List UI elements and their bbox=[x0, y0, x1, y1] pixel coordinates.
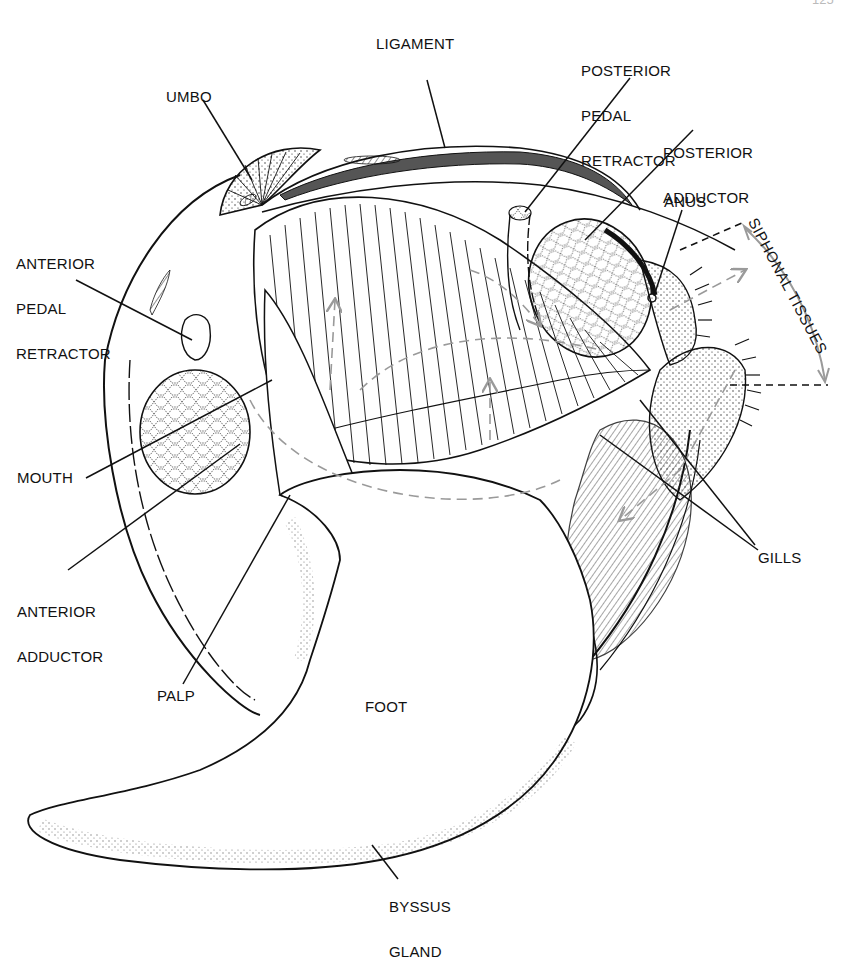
label-gills: GILLS bbox=[758, 550, 802, 565]
label-foot: FOOT bbox=[365, 699, 407, 714]
label-anus: ANUS bbox=[664, 194, 706, 209]
anterior-pedal-retractor bbox=[150, 270, 210, 360]
label-byssus-gland: BYSSUS GLAND bbox=[389, 869, 451, 961]
foot bbox=[28, 470, 594, 869]
page-number: 125 bbox=[812, 0, 834, 7]
label-posterior-pedal-retractor: POSTERIOR PEDAL RETRACTOR bbox=[581, 33, 676, 198]
anterior-adductor bbox=[140, 370, 250, 494]
label-anterior-adductor: ANTERIOR ADDUCTOR bbox=[17, 574, 103, 694]
label-umbo: UMBO bbox=[166, 89, 212, 104]
label-anterior-pedal-retractor: ANTERIOR PEDAL RETRACTOR bbox=[16, 226, 111, 391]
label-posterior-adductor: POSTERIOR ADDUCTOR bbox=[663, 115, 753, 235]
label-ligament: LIGAMENT bbox=[376, 36, 454, 51]
label-palp: PALP bbox=[157, 688, 195, 703]
label-mouth: MOUTH bbox=[17, 470, 73, 485]
